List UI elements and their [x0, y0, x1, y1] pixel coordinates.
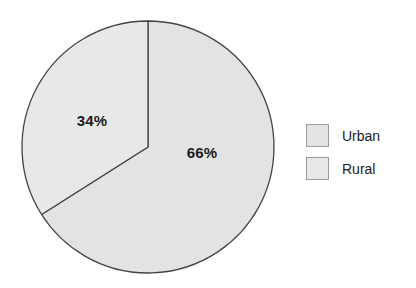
legend-swatch-rural: [306, 157, 329, 180]
chart-legend: Urban Rural: [306, 123, 410, 189]
legend-swatch-urban: [306, 124, 329, 147]
legend-label-rural: Rural: [342, 162, 375, 176]
pie-slice-label-rural: 34%: [77, 112, 108, 129]
legend-item-rural[interactable]: Rural: [306, 156, 410, 181]
pie-chart: 34% 66%: [0, 0, 290, 288]
pie-chart-svg: [0, 0, 290, 288]
pie-slice-label-urban: 66%: [187, 144, 218, 161]
legend-item-urban[interactable]: Urban: [306, 123, 410, 148]
legend-label-urban: Urban: [342, 129, 380, 143]
